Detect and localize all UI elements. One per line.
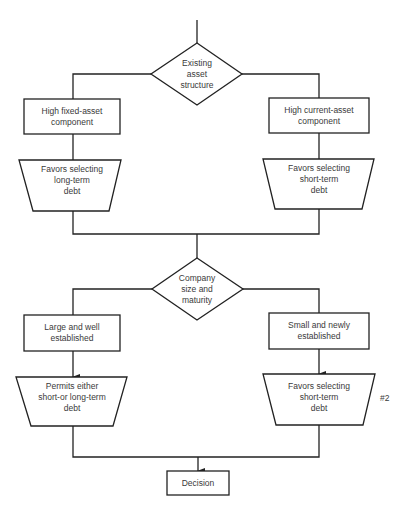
label-line: established	[50, 333, 93, 344]
label-permits-either: Permits either short-or long-term debt	[24, 377, 120, 425]
label-existing-asset-structure: Existing asset structure	[160, 56, 234, 92]
connector-right-branch-1	[242, 74, 319, 98]
label-decision: Decision	[167, 471, 229, 495]
connector-left-branch-2	[73, 289, 152, 315]
label-line: established	[297, 331, 340, 342]
label-high-fixed-asset: High fixed-asset component	[24, 99, 120, 134]
label-line: short-or long-term	[38, 392, 106, 403]
label-line: Decision	[182, 478, 215, 489]
label-high-current-asset: High current-asset component	[269, 98, 369, 133]
label-line: Existing	[182, 58, 212, 69]
connector-right-branch-2	[243, 289, 319, 313]
label-line: short-term	[300, 174, 339, 185]
label-line: debt	[64, 403, 81, 414]
label-line: short-term	[300, 392, 339, 403]
label-line: component	[51, 117, 93, 128]
label-line: Permits either	[46, 381, 98, 392]
label-line: structure	[180, 80, 213, 91]
label-line: Favors selecting	[288, 381, 350, 392]
label-line: Favors selecting	[288, 163, 350, 174]
label-line: Small and newly	[288, 320, 350, 331]
label-favors-short-term-1: Favors selecting short-term debt	[269, 159, 369, 207]
label-line: Company	[179, 273, 215, 284]
label-line: Large and well	[44, 322, 99, 333]
label-small-new: Small and newly established	[269, 313, 369, 349]
merge-connector-1	[73, 209, 319, 234]
label-line: debt	[64, 186, 81, 197]
label-line: maturity	[182, 295, 212, 306]
label-line: asset	[187, 69, 207, 80]
connector-left-branch-1	[73, 74, 151, 99]
label-line: High current-asset	[284, 105, 353, 116]
merge-connector-2	[73, 425, 319, 457]
label-large-established: Large and well established	[24, 315, 120, 351]
label-line: long-term	[54, 175, 90, 186]
label-favors-long-term: Favors selecting long-term debt	[24, 160, 120, 208]
label-favors-short-term-2: Favors selecting short-term debt	[269, 374, 369, 425]
label-line: High fixed-asset	[42, 106, 103, 117]
label-line: debt	[311, 403, 328, 414]
label-line: component	[298, 116, 340, 127]
figure-annotation: #2	[380, 393, 389, 403]
label-line: size and	[181, 284, 213, 295]
label-line: debt	[311, 185, 328, 196]
label-company-size-maturity: Company size and maturity	[160, 271, 234, 307]
label-line: Favors selecting	[41, 164, 103, 175]
